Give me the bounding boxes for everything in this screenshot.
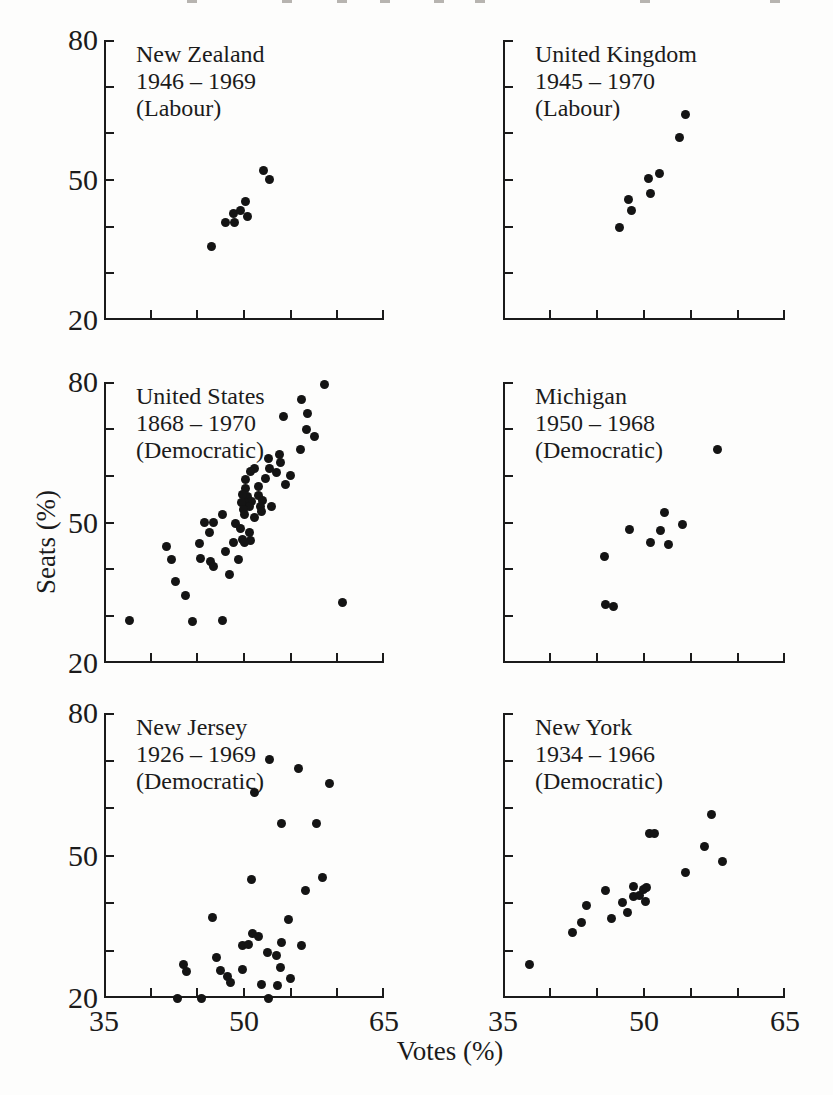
y-tick [104,902,114,904]
y-tick [104,615,114,617]
y-tick [503,382,513,384]
data-point [241,197,250,206]
data-point [277,938,286,947]
y-tick [104,179,114,181]
scan-artifact-mark [475,0,485,3]
panel-title-line: (Democratic) [535,437,663,464]
y-tick [503,568,513,570]
y-tick [104,855,114,857]
data-point [700,842,709,851]
data-point [276,458,285,467]
y-tick-label: 20 [50,305,98,335]
data-point [241,475,250,484]
y-tick [503,950,513,952]
x-tick [596,653,598,663]
y-tick [503,272,513,274]
x-tick [596,310,598,320]
data-point [678,520,687,529]
data-point [259,166,268,175]
data-point [302,425,311,434]
data-point [197,994,206,1003]
data-point [240,538,249,547]
data-point [664,540,673,549]
y-tick [104,713,114,715]
data-point [627,206,636,215]
x-tick [690,310,692,320]
scatter-panel: United States1868 – 1970(Democratic)8050… [104,382,384,663]
y-tick-label: 50 [50,841,98,871]
y-tick [503,226,513,228]
y-tick [104,760,114,762]
x-tick [549,988,551,998]
x-tick-label: 50 [614,1006,674,1036]
data-point [284,915,293,924]
data-point [225,570,234,579]
y-tick [503,760,513,762]
x-tick [783,988,785,998]
data-point [230,218,239,227]
data-point [625,525,634,534]
x-tick [783,653,785,663]
data-point [646,189,655,198]
x-tick [196,653,198,663]
y-tick [503,807,513,809]
data-point [254,932,263,941]
data-point [624,195,633,204]
data-point [623,908,632,917]
panel-title: Michigan1950 – 1968(Democratic) [535,383,663,464]
data-point [525,960,534,969]
y-tick [104,950,114,952]
data-point [240,510,249,519]
panel-title-line: New Zealand [136,41,265,68]
panel-title-line: New Jersey [136,714,264,741]
data-point [218,616,227,625]
y-tick [104,40,114,42]
data-point [286,974,295,983]
data-point [338,598,347,607]
x-tick [549,653,551,663]
data-point [294,764,303,773]
y-tick-label: 50 [50,165,98,195]
data-point [171,577,180,586]
data-point [125,616,134,625]
data-point [618,898,627,907]
y-tick [503,475,513,477]
y-tick [104,428,114,430]
x-tick [290,310,292,320]
x-tick [243,310,245,320]
data-point [263,948,272,957]
data-point [644,174,653,183]
data-point [188,617,197,626]
panel-title-line: 1946 – 1969 [136,68,265,95]
data-point [207,242,216,251]
data-point [577,918,586,927]
x-tick [690,653,692,663]
data-point [601,886,610,895]
data-point [173,994,182,1003]
data-point [681,868,690,877]
y-tick-label: 80 [50,25,98,55]
scatter-panel: New Jersey1926 – 1969(Democratic)8050203… [104,713,384,998]
data-point [629,882,638,891]
data-point [660,508,669,517]
data-point [247,875,256,884]
data-point [221,218,230,227]
y-tick [104,132,114,134]
panel-title: New York1934 – 1966(Democratic) [535,714,663,795]
data-point [250,513,259,522]
y-tick [503,713,513,715]
data-point [641,897,650,906]
data-point [301,886,310,895]
data-point [718,857,727,866]
x-tick [243,988,245,998]
x-tick [549,310,551,320]
x-tick [243,653,245,663]
y-tick [503,179,513,181]
x-tick [783,310,785,320]
x-tick [290,988,292,998]
seats-votes-figure: New Zealand1946 – 1969(Labour)805020Unit… [0,0,833,1095]
x-tick [336,988,338,998]
data-point [655,169,664,178]
data-point [642,883,651,892]
y-tick [104,382,114,384]
